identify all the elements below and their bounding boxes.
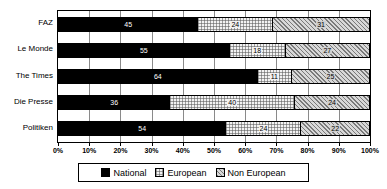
bar-segment-non-european: 31 bbox=[273, 17, 370, 32]
x-tick bbox=[308, 143, 309, 146]
legend-swatch-icon bbox=[155, 168, 164, 177]
bar-row: 452431 bbox=[58, 17, 370, 32]
x-tick-label: 30% bbox=[145, 147, 159, 155]
bar-segment-non-european: 27 bbox=[286, 43, 370, 58]
x-tick-label: 100% bbox=[361, 147, 379, 155]
bar-segment-national: 64 bbox=[58, 69, 258, 84]
category-axis-labels: FAZLe MondeThe TimesDie PressePolitiken bbox=[0, 10, 53, 143]
bar-segment-non-european: 22 bbox=[301, 121, 370, 136]
x-tick-label: 40% bbox=[176, 147, 190, 155]
x-tick-label: 80% bbox=[301, 147, 315, 155]
legend-item[interactable]: Non European bbox=[216, 168, 286, 178]
category-label: Die Presse bbox=[14, 97, 53, 106]
bar-value-label: 55 bbox=[140, 47, 148, 54]
x-tick-label: 20% bbox=[113, 147, 127, 155]
bar-segment-european: 24 bbox=[198, 17, 273, 32]
bar-value-label: 31 bbox=[316, 21, 326, 28]
bar-value-label: 18 bbox=[252, 47, 262, 54]
x-tick-label: 60% bbox=[238, 147, 252, 155]
legend-item[interactable]: National bbox=[101, 168, 146, 178]
x-tick-label: 90% bbox=[332, 147, 346, 155]
x-axis: 0%10%20%30%40%50%60%70%80%90%100% bbox=[57, 143, 371, 157]
category-label: Politiken bbox=[23, 123, 53, 132]
bar-value-label: 36 bbox=[110, 99, 118, 106]
bar-segment-non-european: 25 bbox=[292, 69, 370, 84]
bar-value-label: 27 bbox=[322, 47, 332, 54]
x-tick-label: 70% bbox=[269, 147, 283, 155]
x-tick bbox=[58, 143, 59, 146]
legend-item[interactable]: European bbox=[155, 168, 206, 178]
bar-value-label: 45 bbox=[124, 21, 132, 28]
x-tick bbox=[120, 143, 121, 146]
x-tick bbox=[183, 143, 184, 146]
bar-value-label: 25 bbox=[326, 73, 336, 80]
x-tick-label: 0% bbox=[53, 147, 63, 155]
legend-swatch-icon bbox=[216, 168, 225, 177]
bar-value-label: 24 bbox=[230, 21, 240, 28]
x-tick-label: 50% bbox=[207, 147, 221, 155]
bar-value-label: 54 bbox=[138, 125, 146, 132]
x-tick bbox=[214, 143, 215, 146]
bar-value-label: 24 bbox=[259, 125, 269, 132]
x-tick bbox=[276, 143, 277, 146]
category-label: The Times bbox=[16, 71, 53, 80]
plot-area: 452431551827641125364024542422 bbox=[57, 10, 371, 143]
stacked-bar-chart: FAZLe MondeThe TimesDie PressePolitiken … bbox=[0, 0, 387, 189]
bar-value-label: 64 bbox=[154, 73, 162, 80]
x-tick bbox=[245, 143, 246, 146]
x-tick bbox=[89, 143, 90, 146]
bar-segment-non-european: 24 bbox=[295, 95, 370, 110]
category-label: Le Monde bbox=[17, 44, 53, 53]
legend-label: Non European bbox=[228, 168, 286, 178]
bar-segment-european: 18 bbox=[230, 43, 286, 58]
chart-legend: NationalEuropeanNon European bbox=[78, 163, 309, 182]
category-label: FAZ bbox=[38, 18, 53, 27]
bar-segment-national: 54 bbox=[58, 121, 226, 136]
bar-segment-european: 40 bbox=[170, 95, 295, 110]
bar-row: 542422 bbox=[58, 121, 370, 136]
bar-segment-national: 55 bbox=[58, 43, 230, 58]
legend-label: European bbox=[167, 168, 206, 178]
x-tick-label: 10% bbox=[82, 147, 96, 155]
bar-row: 641125 bbox=[58, 69, 370, 84]
bar-value-label: 11 bbox=[270, 73, 279, 80]
legend-label: National bbox=[113, 168, 146, 178]
x-tick bbox=[339, 143, 340, 146]
bar-row: 551827 bbox=[58, 43, 370, 58]
bar-segment-national: 45 bbox=[58, 17, 198, 32]
bar-rows: 452431551827641125364024542422 bbox=[58, 11, 370, 142]
bar-value-label: 22 bbox=[330, 125, 340, 132]
bar-segment-european: 11 bbox=[258, 69, 292, 84]
bar-value-label: 24 bbox=[327, 99, 337, 106]
bar-segment-national: 36 bbox=[58, 95, 170, 110]
x-tick bbox=[370, 143, 371, 146]
bar-value-label: 40 bbox=[227, 99, 237, 106]
bar-segment-european: 24 bbox=[226, 121, 301, 136]
x-tick bbox=[152, 143, 153, 146]
bar-row: 364024 bbox=[58, 95, 370, 110]
legend-swatch-icon bbox=[101, 168, 110, 177]
